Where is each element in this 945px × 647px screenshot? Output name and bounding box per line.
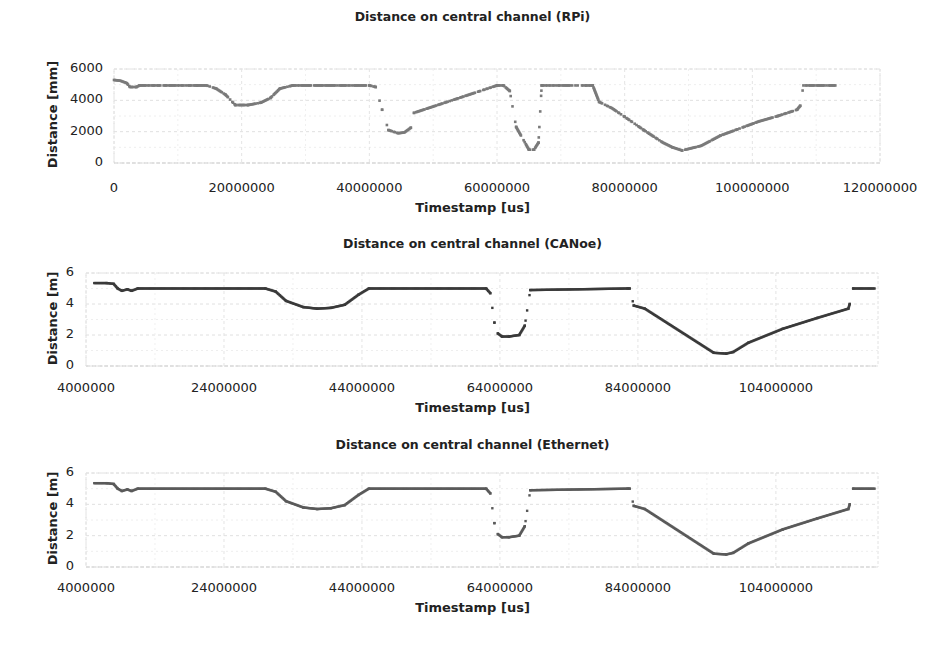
y-tick-label: 0 <box>14 558 74 573</box>
x-tick-label: 104000000 <box>721 580 831 595</box>
x-tick-label: 84000000 <box>583 580 693 595</box>
y-tick-label: 6 <box>14 464 74 479</box>
x-tick-label: 4000000 <box>31 580 141 595</box>
data-series <box>93 482 876 556</box>
y-tick-label: 4 <box>14 495 74 510</box>
x-tick-label: 24000000 <box>169 580 279 595</box>
x-tick-label: 64000000 <box>445 580 555 595</box>
x-tick-label: 44000000 <box>307 580 417 595</box>
y-tick-label: 2 <box>14 527 74 542</box>
x-axis-label: Timestamp [us] <box>0 600 945 615</box>
plot-area <box>0 0 945 647</box>
